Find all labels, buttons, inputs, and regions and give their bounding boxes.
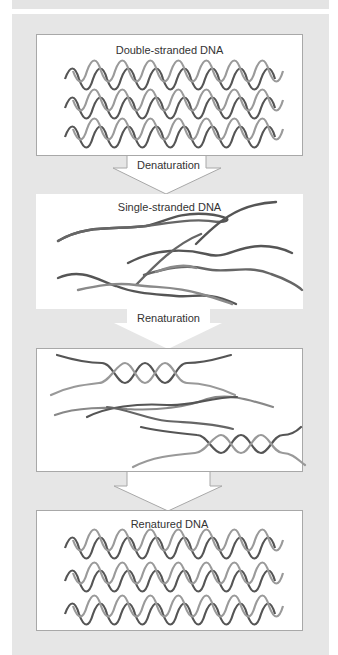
stage-renatured: Renatured DNA bbox=[36, 510, 303, 631]
stage-reannealing bbox=[36, 348, 303, 472]
reannealing-strands-group bbox=[37, 349, 304, 473]
single-strands-group bbox=[36, 194, 303, 309]
renaturation-label: Renaturation bbox=[127, 312, 210, 324]
double-helix-group bbox=[37, 511, 304, 632]
double-helix-group bbox=[37, 35, 304, 157]
stage-single-stranded: Single-stranded DNA bbox=[36, 194, 303, 309]
denaturation-label: Denaturation bbox=[127, 159, 210, 171]
renaturation-complete-arrow bbox=[114, 468, 222, 511]
stage-double-stranded: Double-stranded DNA bbox=[36, 34, 303, 156]
